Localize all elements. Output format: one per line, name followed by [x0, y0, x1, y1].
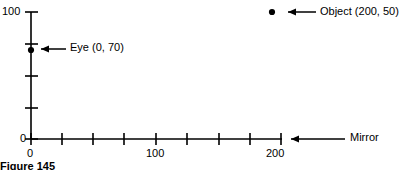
figure-root: 100 0 0 100 200 Eye (0, 70) Object (200,…: [0, 0, 408, 170]
object-point: [269, 9, 275, 15]
y-axis-label-100: 100: [2, 6, 20, 17]
x-axis-label-100: 100: [146, 148, 164, 159]
mirror-label: Mirror: [350, 132, 379, 143]
eye-point: [28, 47, 34, 53]
x-axis-label-0: 0: [27, 148, 33, 159]
x-axis-label-200: 200: [266, 148, 284, 159]
object-label: Object (200, 50): [320, 6, 399, 17]
mirror-arrow: [291, 135, 345, 142]
eye-arrow: [41, 45, 66, 52]
eye-label: Eye (0, 70): [70, 42, 124, 53]
y-axis-label-0: 0: [20, 133, 26, 144]
figure-caption: Figure 145: [0, 161, 55, 170]
plot-canvas: [0, 0, 408, 170]
object-arrow: [288, 8, 316, 15]
